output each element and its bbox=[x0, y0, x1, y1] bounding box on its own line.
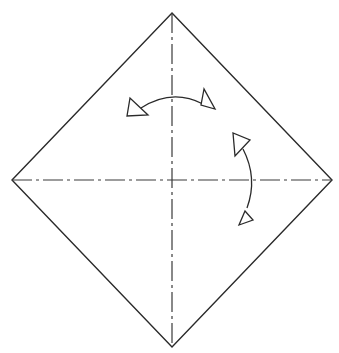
origami-diagram bbox=[0, 0, 339, 353]
background bbox=[0, 0, 339, 353]
